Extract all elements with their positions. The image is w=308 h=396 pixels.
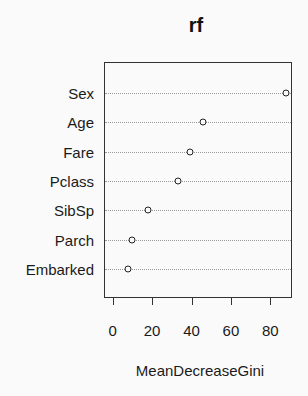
category-label: Sex (68, 85, 94, 102)
data-point (174, 178, 181, 185)
x-tick (270, 298, 271, 305)
data-point (186, 149, 193, 156)
dotted-guide-line (105, 210, 291, 211)
x-tick-label: 80 (262, 322, 279, 339)
data-point (283, 90, 290, 97)
x-tick (231, 298, 232, 305)
x-tick (152, 298, 153, 305)
data-point (129, 237, 136, 244)
category-label: SibSp (54, 202, 94, 219)
x-tick-label: 20 (144, 322, 161, 339)
x-tick (113, 298, 114, 305)
x-tick-label: 40 (183, 322, 200, 339)
dotted-guide-line (105, 93, 291, 94)
data-point (125, 266, 132, 273)
category-label: Parch (55, 232, 94, 249)
category-label: Fare (63, 144, 94, 161)
category-label: Pclass (50, 173, 94, 190)
data-point (200, 119, 207, 126)
x-tick-label: 0 (109, 322, 117, 339)
category-label: Age (67, 114, 94, 131)
x-axis-label: MeanDecreaseGini (108, 362, 292, 379)
dotted-guide-line (105, 152, 291, 153)
category-label: Embarked (26, 261, 94, 278)
dotted-guide-line (105, 122, 291, 123)
data-point (145, 207, 152, 214)
dotted-guide-line (105, 181, 291, 182)
x-tick (192, 298, 193, 305)
dotted-guide-line (105, 269, 291, 270)
x-tick-label: 60 (223, 322, 240, 339)
chart-title: rf (0, 14, 308, 37)
plot-frame (104, 62, 292, 298)
